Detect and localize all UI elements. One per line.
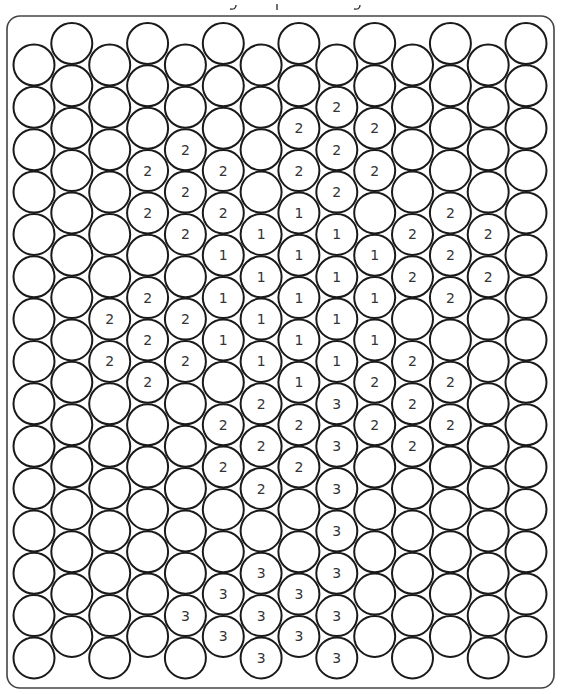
grid-cell[interactable] [506, 574, 547, 615]
cell-circle[interactable] [506, 192, 547, 233]
grid-cell[interactable]: 1 [241, 299, 282, 340]
grid-cell[interactable] [51, 531, 92, 572]
grid-cell[interactable] [51, 489, 92, 530]
cell-circle[interactable] [241, 87, 282, 128]
grid-cell[interactable] [14, 383, 55, 424]
grid-cell[interactable] [392, 637, 433, 678]
grid-cell[interactable]: 2 [278, 447, 319, 488]
cell-circle[interactable] [430, 574, 471, 615]
cell-circle[interactable] [468, 595, 509, 636]
grid-cell[interactable]: 3 [316, 468, 357, 509]
grid-cell[interactable] [14, 426, 55, 467]
cell-circle[interactable] [14, 595, 55, 636]
grid-cell[interactable]: 1 [203, 235, 244, 276]
cell-circle[interactable] [14, 214, 55, 255]
cell-circle[interactable] [506, 235, 547, 276]
grid-cell[interactable]: 1 [203, 319, 244, 360]
grid-cell[interactable]: 1 [316, 256, 357, 297]
grid-cell[interactable] [430, 616, 471, 657]
grid-cell[interactable]: 1 [354, 277, 395, 318]
cell-circle[interactable] [506, 319, 547, 360]
grid-cell[interactable] [51, 362, 92, 403]
cell-circle[interactable] [506, 447, 547, 488]
cell-circle[interactable] [430, 531, 471, 572]
cell-circle[interactable] [165, 553, 206, 594]
grid-cell[interactable] [127, 531, 168, 572]
grid-cell[interactable] [127, 489, 168, 530]
grid-cell[interactable] [14, 637, 55, 678]
grid-cell[interactable] [89, 45, 130, 86]
grid-cell[interactable] [468, 595, 509, 636]
cell-circle[interactable] [51, 404, 92, 445]
cell-circle[interactable] [468, 510, 509, 551]
cell-circle[interactable] [430, 150, 471, 191]
cell-circle[interactable] [165, 637, 206, 678]
cell-circle[interactable] [392, 299, 433, 340]
cell-circle[interactable] [51, 574, 92, 615]
grid-cell[interactable] [89, 510, 130, 551]
grid-cell[interactable]: 3 [241, 595, 282, 636]
grid-cell[interactable] [51, 319, 92, 360]
cell-circle[interactable] [468, 87, 509, 128]
cell-circle[interactable] [127, 108, 168, 149]
grid-cell[interactable]: 3 [203, 574, 244, 615]
grid-cell[interactable] [354, 23, 395, 64]
grid-cell[interactable]: 2 [392, 214, 433, 255]
cell-circle[interactable] [51, 362, 92, 403]
grid-cell[interactable] [506, 108, 547, 149]
cell-circle[interactable] [14, 45, 55, 86]
grid-cell[interactable]: 1 [278, 362, 319, 403]
grid-cell[interactable]: 2 [354, 404, 395, 445]
grid-cell[interactable] [127, 235, 168, 276]
grid-cell[interactable]: 2 [392, 256, 433, 297]
cell-circle[interactable] [506, 65, 547, 106]
cell-circle[interactable] [241, 45, 282, 86]
cell-circle[interactable] [392, 510, 433, 551]
grid-cell[interactable]: 1 [316, 299, 357, 340]
grid-cell[interactable]: 1 [278, 235, 319, 276]
cell-circle[interactable] [278, 531, 319, 572]
grid-cell[interactable] [89, 172, 130, 213]
grid-cell[interactable]: 2 [165, 172, 206, 213]
grid-cell[interactable] [354, 531, 395, 572]
grid-cell[interactable]: 2 [430, 235, 471, 276]
cell-circle[interactable] [14, 129, 55, 170]
grid-cell[interactable] [14, 172, 55, 213]
grid-cell[interactable] [14, 129, 55, 170]
cell-circle[interactable] [14, 172, 55, 213]
cell-circle[interactable] [506, 150, 547, 191]
grid-cell[interactable]: 1 [354, 235, 395, 276]
grid-cell[interactable]: 2 [203, 447, 244, 488]
grid-cell[interactable] [354, 574, 395, 615]
grid-cell[interactable] [51, 235, 92, 276]
grid-cell[interactable] [51, 616, 92, 657]
cell-circle[interactable] [51, 150, 92, 191]
grid-cell[interactable] [89, 214, 130, 255]
grid-cell[interactable]: 2 [89, 341, 130, 382]
grid-cell[interactable] [468, 468, 509, 509]
cell-circle[interactable] [51, 235, 92, 276]
cell-circle[interactable] [51, 447, 92, 488]
grid-cell[interactable] [165, 510, 206, 551]
grid-cell[interactable] [241, 172, 282, 213]
cell-circle[interactable] [241, 510, 282, 551]
grid-cell[interactable] [127, 616, 168, 657]
grid-cell[interactable] [316, 45, 357, 86]
grid-cell[interactable] [506, 192, 547, 233]
cell-circle[interactable] [89, 129, 130, 170]
grid-cell[interactable] [51, 192, 92, 233]
grid-cell[interactable]: 2 [203, 404, 244, 445]
cell-circle[interactable] [165, 87, 206, 128]
cell-circle[interactable] [468, 637, 509, 678]
cell-circle[interactable] [165, 510, 206, 551]
grid-cell[interactable] [430, 108, 471, 149]
cell-circle[interactable] [354, 23, 395, 64]
cell-circle[interactable] [430, 616, 471, 657]
grid-cell[interactable] [354, 447, 395, 488]
grid-cell[interactable]: 2 [241, 468, 282, 509]
grid-cell[interactable]: 2 [203, 150, 244, 191]
cell-circle[interactable] [14, 383, 55, 424]
grid-cell[interactable] [89, 468, 130, 509]
grid-cell[interactable] [51, 277, 92, 318]
grid-cell[interactable] [468, 637, 509, 678]
